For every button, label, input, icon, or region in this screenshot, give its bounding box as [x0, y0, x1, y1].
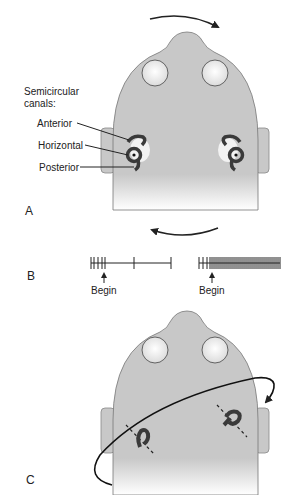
left-eye [142, 60, 168, 86]
spike-train-left [91, 257, 171, 269]
panel-a: Semicircular canals: Anterior Horizontal… [24, 16, 269, 235]
panel-c: C [26, 311, 274, 495]
begin-label-right: Begin [199, 285, 225, 296]
semicircular-title-line1: Semicircular [24, 86, 80, 97]
label-horizontal: Horizontal [38, 140, 83, 151]
head-outline-c [113, 311, 258, 495]
begin-label-left: Begin [91, 285, 117, 296]
vestibular-diagram: Semicircular canals: Anterior Horizontal… [0, 0, 298, 495]
semicircular-title-line2: canals: [24, 98, 56, 109]
label-posterior: Posterior [39, 162, 80, 173]
right-eye [202, 60, 228, 86]
left-eye-c [142, 337, 168, 363]
panel-b-label: B [27, 269, 35, 283]
rotation-arrow-top [150, 16, 218, 27]
label-anterior: Anterior [37, 118, 73, 129]
head-outline [113, 32, 258, 210]
spike-train-right [199, 257, 280, 269]
panel-a-label: A [25, 204, 33, 218]
panel-b: B Begin [27, 257, 280, 296]
panel-c-label: C [26, 473, 35, 487]
right-eye-c [202, 337, 228, 363]
rotation-arrow-bottom [152, 228, 218, 235]
